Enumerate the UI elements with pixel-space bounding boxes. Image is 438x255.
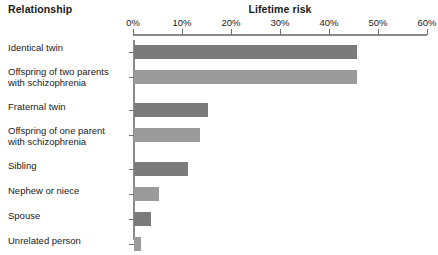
x-tick-mark (133, 29, 134, 35)
x-tick-label: 20% (221, 17, 240, 28)
x-axis: 0%10%20%30%40%50%60% (133, 17, 427, 41)
plot-area: Identical twinOffspring of two parentswi… (0, 40, 438, 247)
chart-row: Nephew or niece (0, 185, 438, 210)
x-tick-mark (280, 29, 281, 35)
x-tick-mark (329, 29, 330, 35)
bar (134, 128, 200, 142)
x-tick-label: 30% (270, 17, 289, 28)
category-label: Identical twin (8, 42, 128, 53)
relationship-column-header: Relationship (8, 3, 72, 15)
category-label: Offspring of two parentswith schizophren… (8, 66, 128, 88)
x-tick-label: 60% (417, 17, 436, 28)
x-tick-label: 50% (368, 17, 387, 28)
category-label: Offspring of one parentwith schizophreni… (8, 125, 128, 147)
category-label: Nephew or niece (8, 185, 128, 196)
x-tick-mark (378, 29, 379, 35)
bar (134, 103, 208, 117)
bar (134, 45, 357, 59)
bar (134, 187, 159, 201)
bar (134, 212, 151, 226)
lifetime-risk-title: Lifetime risk (133, 3, 427, 15)
category-label: Unrelated person (8, 235, 128, 246)
x-tick-mark (427, 29, 428, 35)
chart-row: Spouse (0, 210, 438, 235)
chart-row: Identical twin (0, 42, 438, 67)
category-label: Sibling (8, 160, 128, 171)
chart-row: Unrelated person (0, 235, 438, 255)
chart-row: Sibling (0, 160, 438, 185)
x-tick-label: 40% (319, 17, 338, 28)
x-tick-mark (182, 29, 183, 35)
chart-row: Fraternal twin (0, 101, 438, 126)
bar (134, 237, 141, 251)
x-tick-label: 0% (126, 17, 140, 28)
x-tick-label: 10% (172, 17, 191, 28)
x-tick-mark (231, 29, 232, 35)
bar (134, 70, 357, 84)
category-label: Spouse (8, 210, 128, 221)
category-label: Fraternal twin (8, 101, 128, 112)
chart-row: Offspring of one parentwith schizophreni… (0, 126, 438, 151)
bar (134, 162, 188, 176)
chart-row: Offspring of two parentswith schizophren… (0, 67, 438, 92)
